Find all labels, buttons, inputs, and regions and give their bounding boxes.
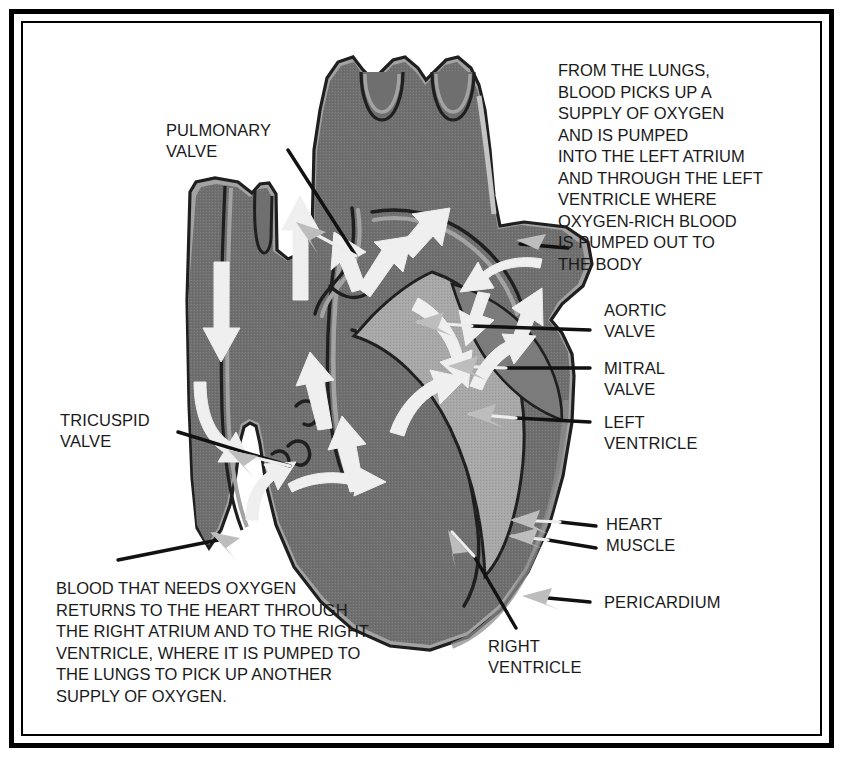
caval-notch bbox=[255, 190, 272, 253]
label-tricuspid-valve: TRICUSPID VALVE bbox=[60, 410, 150, 452]
leader-heart-muscle-2 bbox=[548, 540, 596, 548]
label-mitral-valve: MITRAL VALVE bbox=[604, 358, 665, 400]
pointer-blood-returns bbox=[210, 532, 240, 560]
label-aortic-valve: AORTIC VALVE bbox=[604, 300, 667, 342]
label-left-ventricle: LEFT VENTRICLE bbox=[604, 412, 698, 454]
leader-heart-muscle bbox=[560, 522, 596, 526]
paragraph-deoxygenated-flow: BLOOD THAT NEEDS OXYGEN RETURNS TO THE H… bbox=[56, 578, 369, 707]
leader-pericardium bbox=[548, 598, 590, 602]
label-pulmonary-valve: PULMONARY VALVE bbox=[166, 120, 271, 162]
label-heart-muscle: HEART MUSCLE bbox=[606, 514, 675, 556]
leader-blood-returns bbox=[118, 538, 228, 560]
heart-diagram-page: FROM THE LUNGS, BLOOD PICKS UP A SUPPLY … bbox=[0, 0, 843, 757]
label-right-ventricle: RIGHT VENTRICLE bbox=[488, 636, 582, 678]
label-pericardium: PERICARDIUM bbox=[604, 592, 721, 613]
paragraph-oxygenated-flow: FROM THE LUNGS, BLOOD PICKS UP A SUPPLY … bbox=[558, 60, 763, 275]
